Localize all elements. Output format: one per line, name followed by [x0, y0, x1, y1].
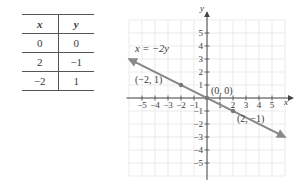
x-tick-label: 3	[244, 100, 249, 110]
axes	[126, 12, 292, 180]
y-tick-label: 4	[199, 41, 204, 51]
y-tick-label: −4	[193, 145, 203, 155]
x-tick-label: −5	[137, 100, 147, 110]
y-tick-label: −3	[193, 132, 203, 142]
point-label: (0, 0)	[211, 85, 233, 97]
y-tick-label: 1	[199, 80, 204, 90]
data-point	[205, 96, 209, 100]
y-tick-label: −2	[193, 119, 203, 129]
x-axis-label: x	[283, 97, 288, 107]
point-label: (2, −1)	[237, 113, 264, 125]
y-tick-label: −5	[193, 158, 203, 168]
y-axis-label: y	[199, 3, 204, 13]
equation-label: x = −2y	[134, 43, 169, 54]
y-tick-label: −1	[193, 106, 203, 116]
graph: −5−4−3−2−11234554321−1−2−3−4−5 (−2, 1)(0…	[0, 0, 308, 194]
point-label: (−2, 1)	[135, 74, 162, 86]
x-tick-label: −2	[176, 100, 186, 110]
x-tick-label: 5	[270, 100, 275, 110]
y-tick-label: 3	[199, 54, 204, 64]
x-tick-label: −3	[163, 100, 173, 110]
x-tick-label: −4	[150, 100, 160, 110]
x-tick-label: 4	[257, 100, 262, 110]
x-tick-label: 2	[231, 100, 236, 110]
data-point	[179, 83, 183, 87]
y-tick-label: 5	[199, 28, 204, 38]
y-tick-label: 2	[199, 67, 204, 77]
data-point	[231, 109, 235, 113]
